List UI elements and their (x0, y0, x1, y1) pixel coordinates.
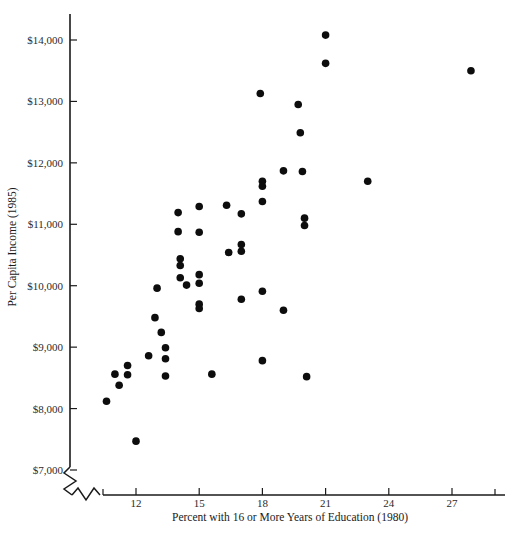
data-point (301, 214, 309, 222)
y-axis-tick-labels: $7,000$8,000$9,000$10,000$11,000$12,000$… (27, 34, 63, 476)
x-axis-ticks (103, 488, 495, 495)
y-axis-title: Per Capita Income (1985) (6, 187, 19, 306)
data-point (238, 241, 246, 249)
data-point (174, 228, 182, 236)
y-tick-label: $9,000 (33, 341, 64, 353)
x-tick-label: 12 (131, 497, 142, 509)
data-point (145, 352, 153, 360)
data-point (280, 306, 288, 314)
data-point (195, 279, 203, 287)
data-point (174, 209, 182, 217)
data-point (259, 357, 267, 365)
data-point (299, 168, 307, 176)
data-point (238, 210, 246, 218)
data-point (364, 177, 372, 185)
data-point (259, 287, 267, 295)
data-point (176, 255, 184, 263)
y-tick-label: $12,000 (27, 157, 63, 169)
y-tick-label: $11,000 (28, 218, 64, 230)
x-axis-title: Percent with 16 or More Years of Educati… (172, 511, 408, 524)
data-point (322, 60, 330, 68)
x-tick-label: 18 (257, 497, 269, 509)
data-point (195, 305, 203, 313)
data-point (259, 198, 267, 206)
data-point (195, 271, 203, 279)
data-point (124, 362, 132, 370)
data-point (256, 90, 264, 98)
data-point (111, 370, 119, 378)
data-point (225, 249, 233, 257)
x-axis-break-icon (72, 488, 100, 500)
data-point (176, 274, 184, 282)
data-point (176, 262, 184, 270)
data-point (103, 397, 111, 405)
data-point (115, 381, 123, 389)
data-point (153, 284, 161, 292)
data-point (301, 222, 309, 230)
data-point (151, 314, 159, 322)
data-point (238, 248, 246, 256)
data-point (208, 370, 216, 378)
y-tick-label: $13,000 (27, 95, 63, 107)
data-point (297, 129, 305, 137)
data-point (162, 344, 170, 352)
scatter-plot-figure: $7,000$8,000$9,000$10,000$11,000$12,000$… (0, 0, 515, 536)
y-tick-label: $14,000 (27, 34, 63, 46)
data-point (162, 355, 170, 363)
data-point (157, 329, 165, 337)
data-point (183, 281, 191, 289)
x-tick-label: 27 (447, 497, 459, 509)
y-tick-label: $7,000 (33, 464, 64, 476)
y-axis-break-icon (64, 467, 76, 495)
data-point (259, 182, 267, 190)
data-point (195, 203, 203, 211)
y-axis-ticks (70, 40, 77, 470)
data-point (162, 372, 170, 380)
plot-canvas: $7,000$8,000$9,000$10,000$11,000$12,000$… (0, 0, 515, 536)
y-tick-label: $10,000 (27, 280, 63, 292)
x-tick-label: 15 (194, 497, 206, 509)
x-axis-tick-labels: 121518212427 (131, 497, 459, 509)
data-point (195, 228, 203, 236)
data-point (294, 101, 302, 109)
data-point (238, 295, 246, 303)
y-tick-label: $8,000 (33, 403, 64, 415)
x-tick-label: 21 (320, 497, 331, 509)
data-points-layer (103, 31, 475, 445)
data-point (467, 67, 475, 75)
data-point (303, 373, 311, 381)
data-point (132, 437, 140, 445)
data-point (223, 201, 231, 209)
x-tick-label: 24 (383, 497, 395, 509)
data-point (124, 371, 132, 379)
data-point (322, 31, 330, 39)
data-point (280, 167, 288, 175)
